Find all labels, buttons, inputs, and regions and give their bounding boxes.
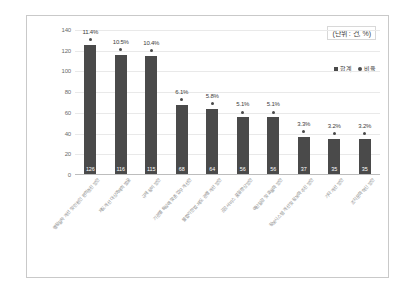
bar-value-label: 35	[362, 166, 368, 172]
bar-value-label: 56	[240, 166, 246, 172]
bar-value-label: 64	[209, 166, 215, 172]
ratio-marker[interactable]	[211, 102, 214, 105]
bar[interactable]: 64	[206, 109, 218, 175]
bar-value-label: 56	[270, 166, 276, 172]
ratio-value-label: 3.2%	[358, 123, 371, 129]
ratio-marker[interactable]	[363, 132, 366, 135]
y-axis-tick: 140	[62, 27, 71, 33]
ratio-marker[interactable]	[119, 48, 122, 51]
bar-group[interactable]: 565.1%	[258, 30, 289, 175]
ratio-marker[interactable]	[272, 111, 275, 114]
ratio-marker[interactable]	[150, 49, 153, 52]
ratio-value-label: 5.1%	[267, 101, 280, 107]
bar[interactable]: 35	[359, 139, 371, 175]
ratio-value-label: 11.4%	[82, 29, 98, 35]
ratio-value-label: 6.1%	[175, 89, 188, 95]
bar[interactable]: 126	[84, 45, 96, 176]
bar[interactable]: 37	[298, 137, 310, 175]
bar[interactable]: 115	[145, 56, 157, 175]
y-axis-tick: 60	[65, 110, 71, 116]
bar[interactable]: 56	[237, 117, 249, 175]
chart-page: (단위 : 건, %) 합계 비율 140120100806040200 126…	[0, 0, 416, 295]
x-axis-tick-label: 공공서비스 품질 향상방안	[219, 177, 253, 214]
bar-value-label: 115	[147, 166, 155, 172]
x-axis-tick-label: 기타 개선 방안	[323, 177, 344, 200]
bar-group[interactable]: 11510.4%	[136, 30, 167, 175]
bar-group[interactable]: 645.8%	[197, 30, 228, 175]
ratio-value-label: 5.1%	[236, 101, 249, 107]
x-axis-tick-label: 규제 정비 방안	[140, 177, 161, 200]
ratio-marker[interactable]	[241, 111, 244, 114]
bar[interactable]: 56	[267, 117, 279, 175]
x-axis-tick-label: 제도개선 대상과제의 발굴	[97, 177, 131, 214]
y-axis-tick: 40	[65, 131, 71, 137]
bar-series: 12611.4%11610.5%11510.4%686.1%645.8%565.…	[75, 30, 380, 175]
y-axis-tick: 0	[68, 172, 71, 178]
bar-group[interactable]: 353.2%	[319, 30, 350, 175]
chart-frame: (단위 : 건, %) 합계 비율 140120100806040200 126…	[26, 15, 389, 278]
ratio-value-label: 10.4%	[143, 40, 159, 46]
ratio-marker[interactable]	[302, 130, 305, 133]
bar-group[interactable]: 12611.4%	[75, 30, 106, 175]
bar-value-label: 68	[179, 166, 185, 172]
bar[interactable]: 35	[328, 139, 340, 175]
x-axis-tick-label: 조직문화 혁신 방안	[349, 177, 376, 206]
ratio-value-label: 5.8%	[206, 93, 219, 99]
bar-group[interactable]: 373.3%	[289, 30, 320, 175]
bar-group[interactable]: 686.1%	[167, 30, 198, 175]
ratio-value-label: 10.5%	[113, 39, 129, 45]
x-axis-line	[75, 174, 380, 175]
ratio-marker[interactable]	[180, 98, 183, 101]
bar-group[interactable]: 11610.5%	[106, 30, 137, 175]
bar-value-label: 37	[301, 166, 307, 172]
y-axis-tick: 20	[65, 151, 71, 157]
y-axis-tick: 100	[62, 68, 71, 74]
plot-area: 140120100806040200 12611.4%11610.5%11510…	[75, 30, 380, 175]
x-axis-tick-label: 예산절감 및 효율화 방안	[251, 177, 283, 212]
ratio-marker[interactable]	[333, 132, 336, 135]
bar-group[interactable]: 565.1%	[228, 30, 259, 175]
y-axis-tick: 120	[62, 48, 71, 54]
bar-value-label: 35	[331, 166, 337, 172]
bar-group[interactable]: 353.2%	[350, 30, 381, 175]
ratio-value-label: 3.3%	[297, 121, 310, 127]
bar-value-label: 126	[86, 166, 95, 172]
y-axis-tick: 80	[65, 89, 71, 95]
bar[interactable]: 68	[176, 105, 188, 175]
bar-value-label: 116	[117, 166, 125, 172]
bar[interactable]: 116	[115, 55, 127, 175]
x-axis-tick-label: 행정절차 개선 및 민원인 편의증진 방안	[51, 177, 100, 231]
ratio-value-label: 3.2%	[328, 123, 341, 129]
ratio-marker[interactable]	[89, 38, 92, 41]
